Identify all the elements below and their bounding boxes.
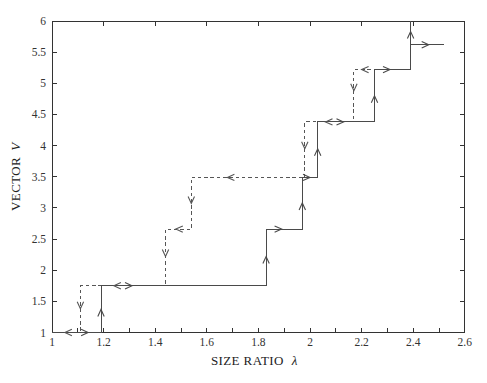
hysteresis-step-chart: 11.21.41.61.822.22.42.611.522.533.544.55…: [0, 0, 487, 383]
x-tick-label: 1.6: [200, 336, 215, 348]
figure-root: 11.21.41.61.822.22.42.611.522.533.544.55…: [0, 0, 487, 383]
y-tick-label: 1.5: [32, 295, 47, 307]
y-tick-label: 3.5: [32, 171, 47, 183]
x-tick-label: 2: [307, 336, 313, 348]
y-tick-label: 5: [40, 77, 46, 89]
x-tick-label: 1.2: [96, 336, 111, 348]
y-axis-label: VECTORV: [8, 141, 23, 211]
y-tick-label: 4.5: [32, 108, 47, 120]
y-tick-label: 4: [40, 140, 46, 152]
x-tick-label: 1: [49, 336, 55, 348]
y-tick-label: 2.5: [32, 233, 47, 245]
x-tick-label: 2.6: [458, 336, 473, 348]
y-tick-label: 3: [40, 202, 46, 214]
x-tick-label: 1.4: [148, 336, 163, 348]
series-line-forward-sweep: [52, 21, 411, 333]
x-tick-label: 2.2: [354, 336, 369, 348]
y-tick-label: 1: [40, 327, 46, 339]
y-tick-label: 2: [40, 264, 46, 276]
y-tick-label: 5.5: [32, 46, 47, 58]
x-axis-label: SIZE RATIOλ: [211, 353, 298, 368]
x-tick-label: 1.8: [251, 336, 266, 348]
y-tick-label: 6: [40, 15, 46, 27]
x-tick-label: 2.4: [406, 336, 421, 348]
